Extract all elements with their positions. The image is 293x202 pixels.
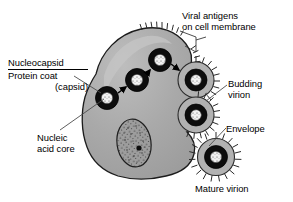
viral-antigens-line1: Viral antigens — [182, 10, 238, 21]
nucleolus — [136, 145, 141, 150]
nucleic-acid-core — [154, 54, 165, 65]
label-budding-virion: Budding virion — [228, 78, 262, 101]
protein-coat-line2: (capsid) — [8, 81, 88, 92]
nucleic-acid-core — [131, 74, 142, 85]
nucleic-acid-core — [101, 92, 112, 103]
mature-core — [210, 151, 221, 162]
viral-antigens-line2: on cell membrane — [182, 21, 256, 32]
nucleic-core-line1: Nucleic — [37, 132, 67, 143]
nucleocapsid-2 — [126, 69, 149, 92]
label-protein-coat: Protein coat (capsid) — [8, 70, 88, 93]
budding-virion-line1: Budding — [228, 78, 262, 89]
protein-coat-line1: Protein coat — [8, 70, 57, 81]
nucleocapsid-1 — [96, 87, 119, 110]
label-nucleic-acid-core: Nucleic acid core — [37, 132, 75, 155]
nucleic-core-line2: acid core — [37, 143, 75, 154]
virus-budding-diagram: Viral antigens on cell membrane Nucleoca… — [0, 0, 293, 202]
budding-virion-line2: virion — [228, 89, 250, 100]
mature-virion-line1: Mature virion — [195, 183, 249, 194]
budding-core — [191, 75, 202, 86]
nucleocapsid-3 — [149, 49, 172, 72]
budding-core — [191, 110, 202, 121]
bracket-stem-viral-antigens — [196, 37, 206, 40]
label-mature-virion: Mature virion — [195, 183, 249, 194]
envelope-line1: Envelope — [226, 123, 265, 134]
label-viral-antigens: Viral antigens on cell membrane — [182, 10, 256, 33]
label-envelope: Envelope — [226, 123, 265, 134]
nucleocapsid-heading: Nucleocapsid — [8, 57, 64, 68]
